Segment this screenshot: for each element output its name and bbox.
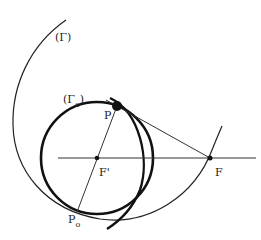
label-gamma0: (Γo) [63,94,84,105]
label-p: P [104,110,111,121]
label-gamma0-open: (Γ [63,93,75,106]
geometry-figure [0,0,261,240]
point-f-prime [95,156,100,161]
circle-gamma [13,20,222,220]
point-f [208,156,213,161]
label-f: F [215,167,223,178]
label-p0-sub: o [75,220,80,229]
label-f-prime: F' [99,167,110,178]
line-p-f [106,100,210,158]
label-gamma: (Γ) [55,32,71,43]
label-gamma0-sub: o [75,100,80,109]
label-p0: Po [68,214,80,225]
point-p [112,101,122,111]
label-gamma0-close: ) [80,93,84,106]
diagram-canvas: (Γ) (Γo) P F' F Po [0,0,261,240]
